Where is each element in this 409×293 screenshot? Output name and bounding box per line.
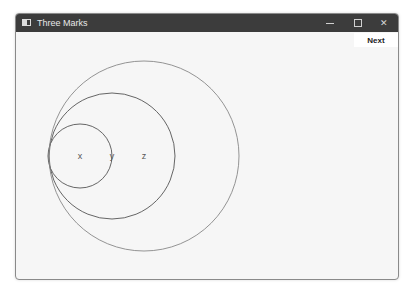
mark-label-x: x xyxy=(78,151,83,161)
next-button[interactable]: Next xyxy=(354,33,398,47)
mark-label-y: y xyxy=(110,151,115,161)
mark-label-z: z xyxy=(142,151,147,161)
app-window: Three Marks ✕ xyz Next xyxy=(15,13,399,280)
drawing-canvas: xyz xyxy=(15,13,399,280)
